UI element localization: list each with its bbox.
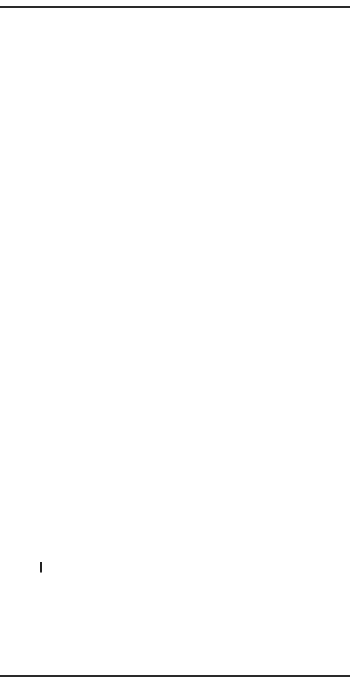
connector-lines [0,0,356,682]
